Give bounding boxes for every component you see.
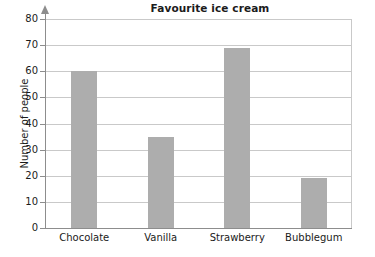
x-tick-label-chocolate: Chocolate [59,232,109,243]
y-tick-70 [40,45,45,46]
bar-strawberry [224,48,250,228]
y-tick-label-70: 70 [8,40,38,50]
y-tick-20 [40,176,45,177]
y-tick-10 [40,202,45,203]
x-tick-label-strawberry: Strawberry [210,232,265,243]
bar-vanilla [148,137,174,228]
y-tick-label-80: 80 [8,14,38,24]
y-tick-50 [40,97,45,98]
plot-area [46,19,352,228]
x-tick-label-vanilla: Vanilla [144,232,177,243]
y-tick-80 [40,19,45,20]
y-tick-label-50: 50 [8,92,38,102]
gridline-70 [46,45,352,46]
x-tick-label-bubblegum: Bubblegum [285,232,342,243]
y-axis-arrow-icon [41,5,49,14]
y-tick-40 [40,124,45,125]
y-tick-label-30: 30 [8,145,38,155]
y-tick-60 [40,71,45,72]
gridline-80 [46,19,352,20]
y-tick-0 [40,228,45,229]
y-tick-label-60: 60 [8,66,38,76]
y-tick-label-10: 10 [8,197,38,207]
bar-chocolate [71,71,97,228]
y-tick-label-40: 40 [8,119,38,129]
y-tick-label-0: 0 [8,223,38,233]
bar-chart: Favourite ice cream Number of people 010… [0,0,375,257]
y-tick-30 [40,150,45,151]
chart-title: Favourite ice cream [60,2,360,14]
bar-bubblegum [301,178,327,228]
gridline-0 [46,228,352,229]
y-tick-label-20: 20 [8,171,38,181]
